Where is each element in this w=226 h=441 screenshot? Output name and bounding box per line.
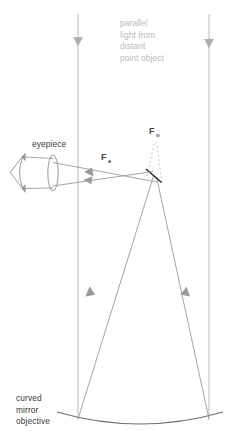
objective-label-line-2: mirror: [16, 405, 39, 415]
primary-mirror-group: [57, 412, 223, 424]
focal-eyepiece-symbol: F: [101, 152, 107, 162]
observer-eye-icon: [10, 156, 23, 189]
curved-mirror-objective-icon: [57, 412, 223, 424]
converging-rays: [78, 176, 209, 419]
emergent-ray-top: [24, 157, 53, 159]
focal-point-objective-label: F o: [149, 126, 160, 138]
telescope-diagram: parallel light from distant point object…: [0, 0, 226, 441]
reflected-ray-lower: [53, 163, 157, 183]
converging-ray-right: [157, 177, 210, 419]
objective-label-line-1: curved: [16, 393, 42, 403]
telescope-ray-diagram-svg: parallel light from distant point object…: [0, 0, 226, 441]
eyepiece-label: eyepiece: [32, 139, 67, 149]
parallel-ray-right-arrow-icon: [204, 39, 214, 49]
focal-objective-subscript: o: [156, 132, 160, 138]
reflected-ray-upper-arrow-icon: [83, 177, 92, 185]
parallel-ray-left-arrow-icon: [73, 37, 83, 47]
focal-objective-symbol: F: [149, 126, 155, 136]
reflected-rays-to-eyepiece: [53, 163, 157, 187]
virtual-ray-right-dashed: [157, 142, 163, 183]
focal-point-eyepiece-label: F e: [101, 152, 112, 164]
parallel-light-line-4: point object: [120, 53, 165, 63]
incoming-parallel-rays: [73, 14, 214, 420]
label-objective-group: curved mirror objective: [16, 393, 50, 426]
label-parallel-light-group: parallel light from distant point object: [120, 18, 165, 63]
emergent-parallel-rays: [22, 153, 54, 194]
converging-ray-left: [78, 176, 154, 419]
focal-eyepiece-subscript: e: [108, 158, 112, 164]
objective-label-line-3: objective: [16, 416, 50, 426]
converging-ray-left-arrow-icon: [86, 286, 96, 296]
emergent-ray-bottom: [24, 188, 53, 189]
eye-cornea-arc: [20, 156, 24, 189]
parallel-light-line-2: light from: [120, 30, 155, 40]
parallel-light-line-3: distant: [120, 41, 146, 51]
parallel-light-line-1: parallel: [120, 18, 148, 28]
